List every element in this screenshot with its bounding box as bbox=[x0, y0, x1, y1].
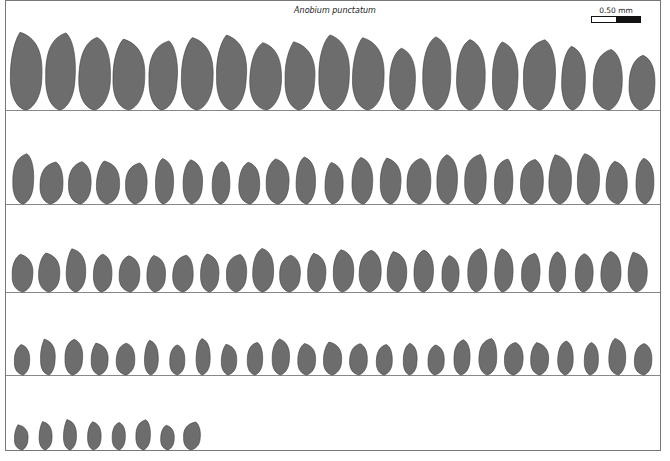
particle-silhouette bbox=[494, 159, 512, 204]
particle-silhouette bbox=[147, 255, 166, 292]
particle-silhouette bbox=[116, 343, 135, 375]
particle-silhouette bbox=[359, 250, 381, 292]
particle-silhouette bbox=[352, 157, 373, 204]
particle-silhouette bbox=[79, 37, 111, 110]
particle-silhouette bbox=[606, 161, 627, 204]
particle-silhouette bbox=[558, 341, 574, 375]
particle-silhouette bbox=[352, 38, 384, 110]
particle-silhouette bbox=[423, 37, 451, 110]
particle-silhouette bbox=[504, 343, 523, 376]
particle-silhouette bbox=[390, 48, 416, 110]
particle-silhouette bbox=[333, 250, 354, 292]
particle-silhouette bbox=[380, 158, 401, 204]
particle-silhouette bbox=[65, 339, 83, 375]
particle-silhouette bbox=[437, 155, 458, 204]
particle-silhouette bbox=[549, 252, 565, 292]
particle-silhouette bbox=[298, 344, 316, 376]
particle-silhouette bbox=[112, 423, 125, 451]
particle-silhouette bbox=[39, 253, 60, 292]
particle-silhouette bbox=[495, 249, 513, 292]
particle-silhouette bbox=[247, 342, 262, 375]
particle-silhouette bbox=[14, 345, 29, 375]
particle-silhouette bbox=[183, 160, 203, 204]
particle-silhouettes bbox=[0, 0, 670, 461]
particle-silhouette bbox=[155, 159, 173, 205]
particle-silhouette bbox=[319, 35, 350, 110]
particle-silhouette bbox=[170, 345, 185, 375]
particle-silhouette bbox=[46, 33, 76, 110]
particle-silhouette bbox=[492, 42, 518, 110]
particle-silhouette bbox=[428, 345, 444, 375]
particle-silhouette bbox=[250, 43, 282, 110]
particle-silhouette bbox=[119, 256, 140, 292]
particle-silhouette bbox=[93, 254, 112, 292]
particle-silhouette bbox=[387, 252, 407, 292]
particle-silhouette bbox=[522, 253, 540, 292]
particle-silhouette bbox=[634, 344, 652, 375]
particle-silhouette bbox=[91, 343, 108, 375]
particle-silhouette bbox=[575, 254, 593, 292]
particle-silhouette bbox=[523, 40, 555, 110]
particle-silhouette bbox=[285, 42, 315, 110]
particle-silhouette bbox=[12, 254, 33, 292]
particle-silhouette bbox=[442, 256, 459, 292]
particle-silhouette bbox=[468, 249, 487, 293]
particle-silhouette bbox=[217, 35, 247, 110]
particle-silhouette bbox=[13, 154, 34, 204]
particle-silhouette bbox=[239, 162, 260, 204]
particle-silhouette bbox=[376, 345, 392, 376]
particle-silhouette bbox=[181, 38, 213, 110]
particle-silhouette bbox=[296, 157, 315, 204]
particle-silhouette bbox=[407, 158, 431, 204]
particle-silhouette bbox=[88, 422, 102, 450]
particle-silhouette bbox=[161, 425, 175, 450]
particle-silhouette bbox=[196, 339, 210, 375]
particle-silhouette bbox=[280, 255, 301, 292]
particle-silhouette bbox=[308, 253, 326, 292]
particle-silhouette bbox=[126, 163, 148, 204]
particle-silhouette bbox=[149, 41, 178, 110]
particle-silhouette bbox=[325, 162, 343, 204]
particle-silhouette bbox=[66, 249, 86, 292]
particle-silhouette bbox=[549, 155, 572, 204]
particle-silhouette bbox=[577, 154, 599, 204]
particle-silhouette bbox=[562, 46, 586, 110]
particle-silhouette bbox=[136, 420, 151, 450]
particle-silhouette bbox=[113, 39, 145, 110]
particle-silhouette bbox=[201, 254, 219, 292]
particle-silhouette bbox=[465, 154, 487, 204]
particle-silhouette bbox=[63, 420, 76, 450]
particle-silhouette bbox=[457, 40, 486, 110]
particle-silhouette bbox=[479, 339, 497, 376]
particle-silhouette bbox=[39, 422, 52, 450]
particle-silhouette bbox=[584, 343, 598, 375]
particle-silhouette bbox=[14, 425, 28, 450]
particle-silhouette bbox=[601, 251, 621, 292]
particle-silhouette bbox=[403, 343, 417, 375]
particle-silhouette bbox=[184, 422, 201, 450]
particle-silhouette bbox=[593, 49, 622, 110]
particle-silhouette bbox=[454, 340, 470, 375]
particle-silhouette bbox=[266, 159, 289, 204]
particle-silhouette bbox=[520, 159, 543, 204]
particle-silhouette bbox=[531, 343, 549, 375]
particle-silhouette bbox=[41, 339, 56, 375]
particle-silhouette bbox=[221, 344, 236, 375]
particle-silhouette bbox=[323, 342, 341, 375]
particle-silhouette bbox=[173, 255, 194, 292]
particle-silhouette bbox=[350, 344, 368, 375]
particle-silhouette bbox=[253, 248, 274, 292]
particle-silhouette bbox=[272, 339, 289, 375]
particle-silhouette bbox=[212, 162, 230, 204]
particle-silhouette bbox=[68, 162, 91, 204]
particle-silhouette bbox=[40, 162, 63, 204]
particle-silhouette bbox=[636, 158, 654, 204]
particle-silhouette bbox=[628, 252, 647, 292]
particle-silhouette bbox=[414, 250, 433, 292]
particle-silhouette bbox=[609, 338, 626, 375]
particle-silhouette bbox=[96, 161, 119, 204]
particle-silhouette bbox=[629, 55, 655, 110]
particle-silhouette bbox=[226, 254, 246, 292]
particle-silhouette bbox=[144, 340, 158, 375]
particle-silhouette bbox=[10, 32, 42, 110]
